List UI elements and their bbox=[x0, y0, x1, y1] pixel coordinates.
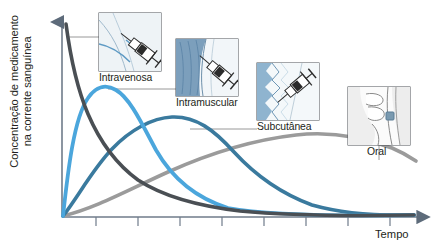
inset-caption-intramuscular: Intramuscular bbox=[176, 97, 238, 108]
inset-intramuscular[interactable] bbox=[176, 39, 240, 96]
chart-canvas bbox=[0, 0, 432, 249]
inset-oral[interactable] bbox=[348, 87, 410, 145]
syringe-muscle-icon bbox=[176, 39, 240, 96]
inset-caption-intravenosa: Intravenosa bbox=[99, 72, 152, 83]
inset-intravenosa[interactable] bbox=[99, 13, 164, 71]
inset-subcutanea[interactable] bbox=[257, 63, 319, 120]
x-axis-ticks bbox=[96, 217, 390, 226]
syringe-vein-icon bbox=[99, 13, 164, 71]
inset-caption-subcutanea: Subcutânea bbox=[257, 121, 311, 132]
syringe-skin-icon bbox=[257, 63, 319, 120]
mouth-pill-icon bbox=[348, 87, 410, 145]
pharmacokinetics-figure: Concentração de medicamento na corrente … bbox=[0, 0, 432, 249]
inset-caption-oral: Oral bbox=[367, 146, 386, 157]
x-axis-label: Tempo bbox=[375, 228, 409, 240]
